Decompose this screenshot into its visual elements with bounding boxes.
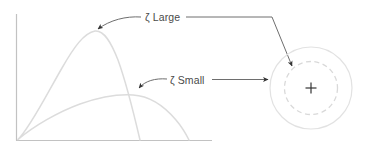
curve-zeta-large <box>18 31 140 140</box>
callout-arrow-large-curve <box>98 17 141 29</box>
center-plus-icon <box>306 83 317 94</box>
figure-canvas <box>0 0 371 146</box>
label-zeta-large: ζ Large <box>145 11 180 23</box>
leader-large-to-inner-circle <box>186 17 292 66</box>
callout-arrow-small-curve <box>139 79 167 88</box>
label-zeta-small: ζ Small <box>170 74 205 86</box>
damping-ratio-figure: ζ Large ζ Small <box>0 0 371 146</box>
